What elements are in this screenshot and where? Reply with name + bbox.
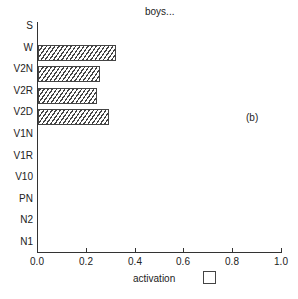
x-tick-label: 0.8 <box>217 256 247 267</box>
bar-v2n <box>38 66 100 82</box>
y-tick-label: V2N <box>0 63 33 75</box>
y-tick-label: N2 <box>0 214 33 226</box>
x-axis <box>37 252 282 253</box>
legend-swatch <box>203 271 216 284</box>
y-tick-label: PN <box>0 193 33 205</box>
x-tick-label: 0.6 <box>168 256 198 267</box>
y-tick-label: N1 <box>0 236 33 248</box>
bar-v2r <box>38 88 97 104</box>
y-tick-label: V2D <box>0 106 33 118</box>
x-tick-label: 0.4 <box>120 256 150 267</box>
x-tick-label: 0.2 <box>71 256 101 267</box>
x-tick <box>37 248 38 252</box>
y-tick-label: V10 <box>0 171 33 183</box>
y-axis <box>37 22 38 253</box>
y-tick-label: S <box>0 20 33 32</box>
x-tick <box>232 248 233 252</box>
y-tick-label: V1R <box>0 150 33 162</box>
x-tick-label: 0.0 <box>22 256 52 267</box>
x-axis-label: activation <box>133 273 175 284</box>
chart-title: boys... <box>145 6 174 17</box>
y-tick-label: W <box>0 42 33 54</box>
y-tick-label: V1N <box>0 128 33 140</box>
x-tick-label: 1.0 <box>266 256 296 267</box>
panel-label: (b) <box>246 112 258 123</box>
x-tick <box>135 248 136 252</box>
x-tick <box>86 248 87 252</box>
bar-w <box>38 45 116 61</box>
y-tick-label: V2R <box>0 85 33 97</box>
x-tick <box>183 248 184 252</box>
x-tick <box>281 248 282 252</box>
bar-v2d <box>38 109 109 125</box>
